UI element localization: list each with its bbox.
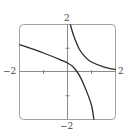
y-tick-label-min: −2: [60, 122, 73, 131]
y-tick-label-max: 2: [64, 14, 70, 23]
curve-right-branch: [70, 25, 115, 70]
curve-left-branch: [20, 45, 94, 120]
x-tick-label-max: 2: [118, 67, 124, 76]
x-tick-label-min: −2: [3, 67, 16, 76]
